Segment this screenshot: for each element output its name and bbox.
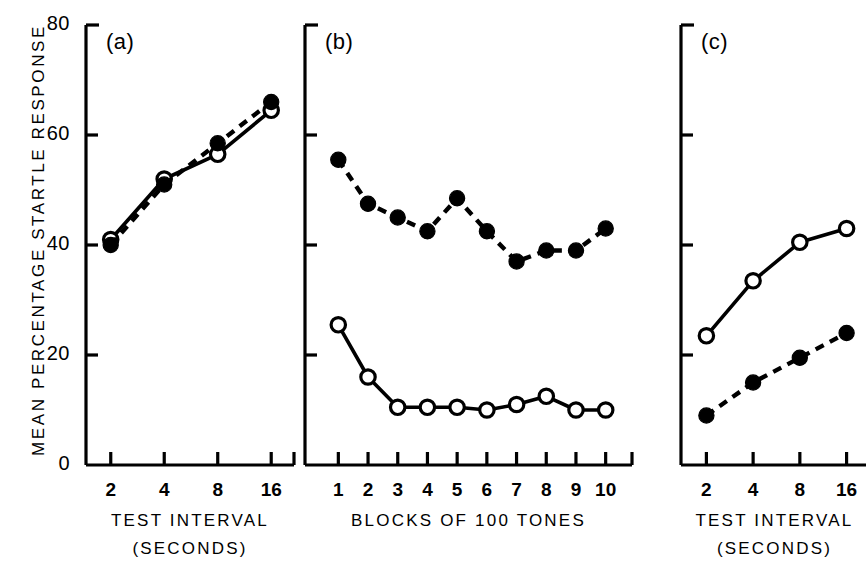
- panel-(b)-open-circle-point-10: [599, 403, 613, 417]
- plot-canvas: [0, 0, 866, 574]
- panel-(c)-open-circle-point-2: [699, 329, 713, 343]
- panel-(c)-filled-circle-point-2: [699, 408, 714, 423]
- panel-(c)-series-filled-circle-dashed-line: [706, 333, 846, 416]
- panel-(b)-filled-circle-point-8: [539, 243, 554, 258]
- panel-(a)-filled-circle-point-2: [103, 237, 118, 252]
- panel-(c)-open-circle-point-4: [746, 274, 760, 288]
- panel-(b)-filled-circle-point-5: [450, 191, 465, 206]
- panel-(b)-open-circle-point-3: [391, 400, 405, 414]
- panel-(c)-filled-circle-point-16: [839, 325, 854, 340]
- figure-panel-group: MEAN PERCENTAGE STARTLE RESPONSE 2481612…: [0, 0, 866, 574]
- panel-(a)-series-filled-circle-dashed-line: [111, 102, 272, 245]
- panel-(a)-filled-circle-point-4: [157, 177, 172, 192]
- panel-label-a: (a): [106, 29, 134, 55]
- panel-(b)-series-open-circle-solid-line: [338, 325, 605, 410]
- panel-(b)-filled-circle-point-6: [479, 224, 494, 239]
- panel-(b)-filled-circle-point-1: [331, 152, 346, 167]
- panel-(b)-series-filled-circle-dashed-line: [338, 160, 605, 262]
- panel-(b)-open-circle-point-6: [480, 403, 494, 417]
- panel-(b)-filled-circle-point-9: [568, 243, 583, 258]
- panel-(b)-open-circle-point-4: [420, 400, 434, 414]
- panel-(a)-filled-circle-point-16: [264, 94, 279, 109]
- panel-(b)-open-circle-point-5: [450, 400, 464, 414]
- panel-label-c: (c): [701, 29, 728, 55]
- panel-(c)-x-axis-subtitle: (SECONDS): [575, 539, 866, 559]
- panel-(b)-open-circle-point-7: [509, 397, 523, 411]
- panel-(a)-x-axis-subtitle: (SECONDS): [0, 539, 390, 559]
- panel-(b)-open-circle-point-1: [331, 318, 345, 332]
- panel-(b)-filled-circle-point-10: [598, 221, 613, 236]
- panel-(b)-filled-circle-point-7: [509, 254, 524, 269]
- panel-(b)-filled-circle-point-2: [360, 196, 375, 211]
- panel-(c)-open-circle-point-8: [793, 235, 807, 249]
- panel-(b)-filled-circle-point-3: [390, 210, 405, 225]
- panel-(c)-x-axis-title: TEST INTERVAL: [575, 511, 866, 531]
- panel-label-b: (b): [325, 29, 353, 55]
- panel-(b)-open-circle-point-8: [539, 389, 553, 403]
- panel-(a)-filled-circle-point-8: [210, 136, 225, 151]
- panel-(b)-open-circle-point-9: [569, 403, 583, 417]
- panel-(c)-filled-circle-point-4: [746, 375, 761, 390]
- panel-(b)-filled-circle-point-4: [420, 224, 435, 239]
- panel-(c)-open-circle-point-16: [839, 221, 853, 235]
- panel-(c)-series-open-circle-solid-line: [706, 229, 846, 336]
- panel-(b)-open-circle-point-2: [361, 370, 375, 384]
- panel-(c)-filled-circle-point-8: [792, 350, 807, 365]
